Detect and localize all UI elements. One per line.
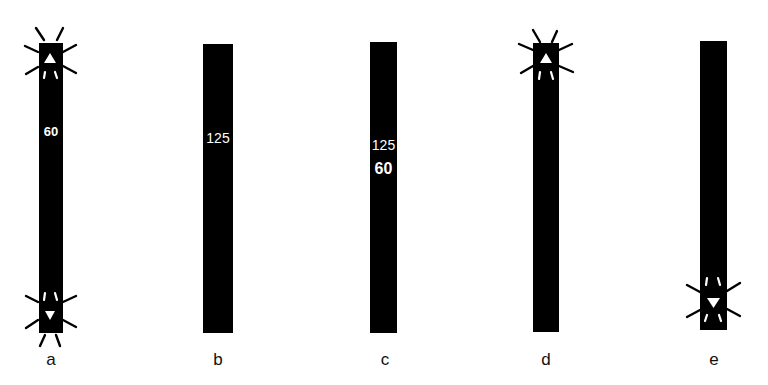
panel-b: 125 b bbox=[190, 0, 250, 385]
blinking-down-arrow-icon bbox=[670, 260, 768, 340]
panel-e: e bbox=[670, 0, 768, 385]
viewfinder-bar-c bbox=[370, 42, 397, 333]
panel-label-a: a bbox=[36, 350, 66, 370]
panel-label-d: d bbox=[531, 350, 561, 370]
panel-c: 125 60 c bbox=[355, 0, 415, 385]
panel-a: 60 a bbox=[0, 0, 110, 385]
shutter-speed-readout: 125 bbox=[203, 130, 233, 146]
shutter-speed-readout-lower: 60 bbox=[370, 160, 397, 178]
panel-label-b: b bbox=[203, 350, 233, 370]
shutter-speed-readout-upper: 125 bbox=[370, 137, 397, 153]
panel-label-e: e bbox=[699, 350, 729, 370]
viewfinder-bar-b bbox=[203, 44, 233, 333]
blinking-down-arrow-icon bbox=[0, 280, 110, 350]
panel-d: d bbox=[500, 0, 600, 385]
panel-label-c: c bbox=[370, 350, 400, 370]
shutter-speed-readout: 60 bbox=[39, 124, 63, 139]
blinking-up-arrow-icon bbox=[500, 0, 600, 100]
blinking-up-arrow-icon bbox=[0, 0, 110, 100]
